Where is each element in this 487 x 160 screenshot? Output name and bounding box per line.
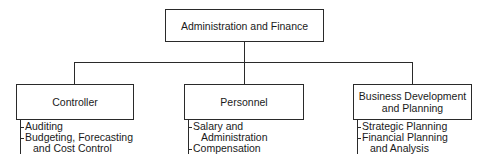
node-bd-label-line1: Business Development (359, 90, 466, 102)
function-label-continuation: and Analysis (362, 143, 448, 154)
function-label-continuation: and Cost Control (25, 143, 133, 154)
node-personnel: Personnel (184, 84, 304, 120)
connector-to-business-development (412, 62, 413, 85)
connector-root-down (244, 41, 245, 63)
function-item: Compensation (189, 143, 268, 154)
personnel-functions-list: Salary andAdministration Compensation (189, 121, 268, 154)
node-controller-label: Controller (52, 96, 98, 108)
connector-to-controller (74, 62, 75, 85)
connector-to-personnel (244, 62, 245, 85)
function-label: Compensation (193, 142, 261, 154)
bd-functions-list: Strategic Planning Financial Planningand… (358, 121, 448, 154)
root-node-administration-and-finance: Administration and Finance (165, 9, 324, 42)
function-item: Budgeting, Forecastingand Cost Control (21, 132, 133, 154)
root-node-label: Administration and Finance (181, 20, 308, 32)
node-bd-label-line2: and Planning (382, 102, 443, 114)
function-item: Financial Planningand Analysis (358, 132, 448, 154)
function-item: Salary andAdministration (189, 121, 268, 143)
node-business-development-and-planning: Business Development and Planning (353, 84, 472, 120)
node-personnel-label: Personnel (220, 96, 267, 108)
controller-functions-list: Auditing Budgeting, Forecastingand Cost … (21, 121, 133, 154)
node-controller: Controller (16, 84, 134, 120)
